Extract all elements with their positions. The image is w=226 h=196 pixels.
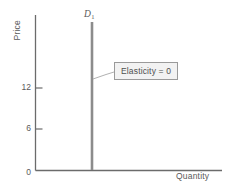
elasticity-annotation-box: Elasticity = 0 xyxy=(114,62,178,80)
y-tick-label-6: 6 xyxy=(18,124,31,133)
annotation-leader-line xyxy=(93,72,114,79)
x-axis-label: Quantity xyxy=(176,172,209,181)
demand-curve-label-subscript: 1 xyxy=(91,13,94,20)
demand-curve-label-letter: D xyxy=(84,9,91,19)
plot-area xyxy=(0,0,226,196)
origin-label-0: 0 xyxy=(20,168,31,177)
demand-curve-label: D1 xyxy=(84,10,94,20)
demand-curve-figure: Price Quantity 12 6 0 D1 Elasticity = 0 xyxy=(0,0,226,196)
y-axis-label: Price xyxy=(13,8,22,52)
y-tick-label-12: 12 xyxy=(18,83,31,92)
